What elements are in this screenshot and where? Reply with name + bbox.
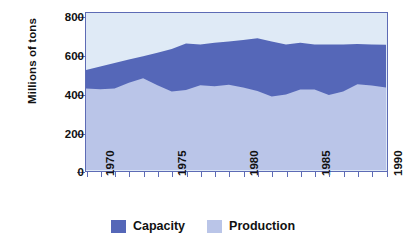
x-tick-mark-1972 [129,172,130,177]
x-tick-mark-1981 [258,172,259,177]
y-tick-label-0: 0 [44,166,84,178]
x-tick-mark-1987 [344,172,345,177]
legend-item-production: Production [207,219,295,233]
legend-swatch-capacity [111,220,126,233]
x-tick-mark-1990 [387,172,388,177]
x-tick-label-1985: 1985 [320,136,332,176]
legend-label-capacity: Capacity [133,219,185,233]
x-tick-mark-1989 [372,172,373,177]
area-chart-figure: Millions of tons 800 600 400 200 0 1970 … [0,0,406,248]
x-tick-mark-1975 [172,172,173,177]
x-tick-label-1975: 1975 [176,136,188,176]
x-tick-mark-1974 [158,172,159,177]
y-tick-label-600: 600 [44,50,84,62]
plot-area [85,12,388,172]
x-tick-label-1990: 1990 [392,136,404,176]
x-tick-mark-1973 [144,172,145,177]
x-tick-mark-1971 [115,172,116,177]
legend-label-production: Production [229,219,295,233]
legend-swatch-production [207,220,222,233]
x-tick-mark-1980 [244,172,245,177]
y-tick-label-400: 400 [44,89,84,101]
x-tick-mark-1985 [315,172,316,177]
x-tick-mark-1979 [229,172,230,177]
x-tick-mark-1988 [358,172,359,177]
x-tick-mark-1984 [301,172,302,177]
x-tick-mark-1983 [287,172,288,177]
x-tick-mark-1978 [215,172,216,177]
y-tick-label-200: 200 [44,128,84,140]
area-chart-svg [86,13,386,170]
chart-legend: Capacity Production [0,219,406,233]
x-tick-label-1980: 1980 [248,136,260,176]
y-axis-title: Millions of tons [26,0,38,131]
x-tick-mark-1977 [201,172,202,177]
x-tick-mark-1976 [187,172,188,177]
x-tick-mark-1969 [87,172,88,177]
x-tick-mark-1982 [272,172,273,177]
legend-item-capacity: Capacity [111,219,185,233]
x-tick-label-1970: 1970 [104,136,116,176]
x-tick-mark-1970 [101,172,102,177]
x-tick-mark-1986 [329,172,330,177]
y-tick-label-800: 800 [44,11,84,23]
